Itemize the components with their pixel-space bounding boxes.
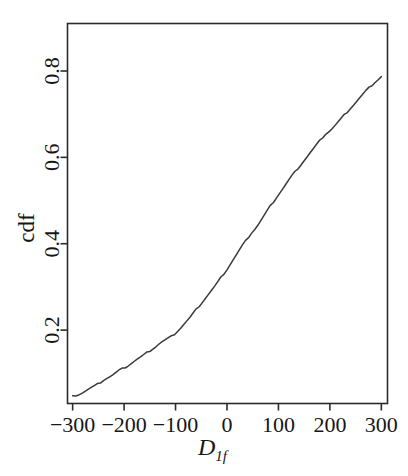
y-tick-label: 0.2 — [39, 316, 64, 344]
x-tick-label: −100 — [153, 412, 198, 437]
x-tick-label: 0 — [221, 412, 232, 437]
x-tick-label: 300 — [365, 412, 398, 437]
y-axis-tick-labels: 0.20.40.60.8 — [39, 57, 64, 344]
y-tick-label: 0.4 — [39, 230, 64, 258]
x-axis-tick-labels: −300−200−1000100200300 — [50, 412, 398, 437]
x-axis-tick-marks — [73, 404, 382, 411]
figure-container: −300−200−1000100200300 0.20.40.60.8 cdf … — [0, 0, 408, 476]
x-tick-label: 100 — [262, 412, 295, 437]
y-tick-label: 0.8 — [39, 57, 64, 85]
y-axis-tick-marks — [61, 71, 68, 330]
x-tick-label: −300 — [50, 412, 95, 437]
x-tick-label: −200 — [101, 412, 146, 437]
cdf-curve — [73, 77, 382, 396]
plot-frame — [68, 24, 388, 404]
x-axis-title-subscript: 1f — [215, 448, 229, 464]
x-axis-title-main: D — [197, 434, 215, 460]
y-axis-title: cdf — [14, 213, 39, 243]
cdf-plot: −300−200−1000100200300 0.20.40.60.8 cdf … — [0, 0, 408, 476]
y-tick-label: 0.6 — [39, 144, 64, 172]
x-axis-title: D1f — [197, 434, 229, 464]
x-tick-label: 200 — [313, 412, 346, 437]
